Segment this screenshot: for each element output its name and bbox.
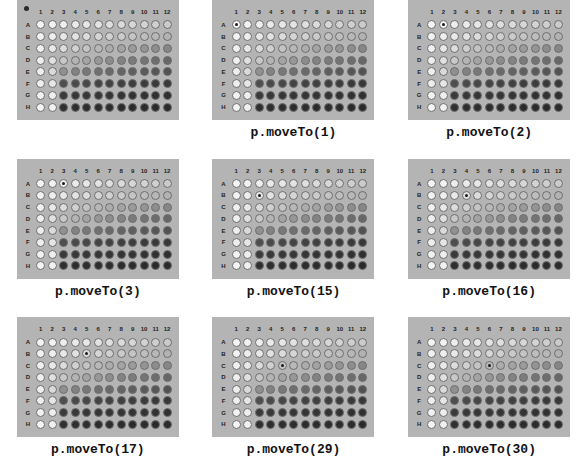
well[interactable] bbox=[507, 336, 519, 348]
well[interactable] bbox=[46, 236, 58, 248]
well[interactable] bbox=[553, 90, 565, 102]
well[interactable] bbox=[345, 336, 357, 348]
well[interactable] bbox=[553, 419, 565, 431]
well[interactable] bbox=[242, 78, 254, 90]
well[interactable] bbox=[104, 360, 116, 372]
well[interactable] bbox=[161, 19, 173, 31]
well[interactable] bbox=[345, 248, 357, 260]
well[interactable] bbox=[334, 360, 346, 372]
well[interactable] bbox=[426, 101, 438, 113]
well[interactable] bbox=[161, 78, 173, 90]
well[interactable] bbox=[426, 395, 438, 407]
well[interactable] bbox=[69, 372, 81, 384]
well[interactable] bbox=[357, 225, 369, 237]
well[interactable] bbox=[357, 43, 369, 55]
well[interactable] bbox=[92, 336, 104, 348]
well[interactable] bbox=[311, 189, 323, 201]
well[interactable] bbox=[311, 66, 323, 78]
well[interactable] bbox=[299, 90, 311, 102]
well[interactable] bbox=[150, 348, 162, 360]
well[interactable] bbox=[288, 43, 300, 55]
well[interactable] bbox=[265, 260, 277, 272]
well[interactable] bbox=[334, 336, 346, 348]
well[interactable] bbox=[92, 101, 104, 113]
well[interactable] bbox=[530, 236, 542, 248]
well[interactable] bbox=[507, 201, 519, 213]
well[interactable] bbox=[35, 31, 47, 43]
well[interactable] bbox=[438, 201, 450, 213]
well[interactable] bbox=[288, 336, 300, 348]
well[interactable] bbox=[299, 189, 311, 201]
microplate[interactable]: 123456789101112ABCDEFGH bbox=[212, 159, 374, 279]
well[interactable] bbox=[472, 225, 484, 237]
well[interactable] bbox=[449, 43, 461, 55]
well[interactable] bbox=[438, 78, 450, 90]
well[interactable] bbox=[449, 78, 461, 90]
well[interactable] bbox=[161, 236, 173, 248]
well[interactable] bbox=[357, 260, 369, 272]
well[interactable] bbox=[92, 236, 104, 248]
well[interactable] bbox=[530, 419, 542, 431]
well[interactable] bbox=[461, 78, 473, 90]
well[interactable] bbox=[553, 348, 565, 360]
well[interactable] bbox=[426, 260, 438, 272]
well[interactable] bbox=[299, 225, 311, 237]
well[interactable] bbox=[127, 189, 139, 201]
well[interactable] bbox=[484, 372, 496, 384]
well[interactable] bbox=[230, 31, 242, 43]
well[interactable] bbox=[104, 31, 116, 43]
well[interactable] bbox=[322, 372, 334, 384]
well[interactable] bbox=[115, 407, 127, 419]
well[interactable] bbox=[311, 383, 323, 395]
well[interactable] bbox=[507, 419, 519, 431]
well[interactable] bbox=[426, 372, 438, 384]
well[interactable] bbox=[161, 372, 173, 384]
well[interactable] bbox=[495, 201, 507, 213]
well[interactable] bbox=[472, 260, 484, 272]
well[interactable] bbox=[276, 101, 288, 113]
well[interactable] bbox=[334, 201, 346, 213]
well[interactable] bbox=[345, 54, 357, 66]
well[interactable] bbox=[507, 360, 519, 372]
well[interactable] bbox=[426, 348, 438, 360]
well[interactable] bbox=[484, 348, 496, 360]
well[interactable] bbox=[484, 225, 496, 237]
well[interactable] bbox=[69, 66, 81, 78]
well[interactable] bbox=[242, 189, 254, 201]
well[interactable] bbox=[150, 236, 162, 248]
well[interactable] bbox=[115, 225, 127, 237]
well[interactable] bbox=[322, 189, 334, 201]
well[interactable] bbox=[299, 78, 311, 90]
well[interactable] bbox=[484, 260, 496, 272]
well[interactable] bbox=[311, 236, 323, 248]
well[interactable] bbox=[507, 19, 519, 31]
well[interactable] bbox=[288, 101, 300, 113]
well[interactable] bbox=[104, 336, 116, 348]
well[interactable] bbox=[311, 54, 323, 66]
well[interactable] bbox=[35, 360, 47, 372]
well[interactable] bbox=[461, 236, 473, 248]
well[interactable] bbox=[69, 348, 81, 360]
well[interactable] bbox=[46, 348, 58, 360]
well[interactable] bbox=[265, 360, 277, 372]
well[interactable] bbox=[495, 225, 507, 237]
well[interactable] bbox=[242, 54, 254, 66]
well-active-marker[interactable] bbox=[230, 19, 242, 31]
well[interactable] bbox=[35, 407, 47, 419]
well[interactable] bbox=[104, 348, 116, 360]
well[interactable] bbox=[288, 236, 300, 248]
well[interactable] bbox=[507, 213, 519, 225]
well[interactable] bbox=[553, 336, 565, 348]
well[interactable] bbox=[58, 348, 70, 360]
microplate[interactable]: 123456789101112ABCDEFGH bbox=[17, 0, 179, 120]
well[interactable] bbox=[58, 236, 70, 248]
well[interactable] bbox=[553, 54, 565, 66]
well[interactable] bbox=[242, 236, 254, 248]
well[interactable] bbox=[322, 360, 334, 372]
well[interactable] bbox=[449, 66, 461, 78]
well[interactable] bbox=[69, 336, 81, 348]
well[interactable] bbox=[322, 236, 334, 248]
well[interactable] bbox=[541, 236, 553, 248]
well[interactable] bbox=[242, 31, 254, 43]
well[interactable] bbox=[357, 66, 369, 78]
